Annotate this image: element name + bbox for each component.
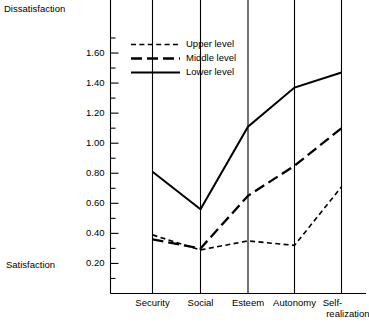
y-tick-label-1.20: 1.20 xyxy=(71,107,105,118)
y-axis-minor-ticks xyxy=(111,38,116,278)
series-line-middle-level xyxy=(153,128,342,248)
y-tick-label-0.60: 0.60 xyxy=(71,197,105,208)
line-chart-plot xyxy=(0,0,369,328)
y-tick-label-0.20: 0.20 xyxy=(71,257,105,268)
legend-label-upper-level: Upper level xyxy=(186,38,234,49)
x-tick-label-self-realization: Self-realization xyxy=(296,297,369,319)
data-series-group xyxy=(153,73,342,250)
y-axis xyxy=(111,0,119,294)
legend-label-lower-level: Lower level xyxy=(186,66,234,77)
x-tick-label-line-1: Self- xyxy=(323,297,343,308)
y-tick-label-0.80: 0.80 xyxy=(71,167,105,178)
series-line-lower-level xyxy=(153,73,342,210)
figure-container: Dissatisfaction Satisfaction 0.200.400.6… xyxy=(0,0,369,328)
y-tick-label-1.00: 1.00 xyxy=(71,137,105,148)
legend-label-middle-level: Middle level xyxy=(186,52,236,63)
category-gridlines xyxy=(153,0,342,294)
y-tick-label-0.40: 0.40 xyxy=(71,227,105,238)
legend-swatches xyxy=(131,45,180,73)
axis-end-label-bottom: Satisfaction xyxy=(6,259,55,270)
y-tick-label-1.40: 1.40 xyxy=(71,77,105,88)
axis-end-label-top: Dissatisfaction xyxy=(4,3,65,14)
x-tick-label-line-2: realization xyxy=(296,308,369,319)
y-tick-label-1.60: 1.60 xyxy=(71,47,105,58)
